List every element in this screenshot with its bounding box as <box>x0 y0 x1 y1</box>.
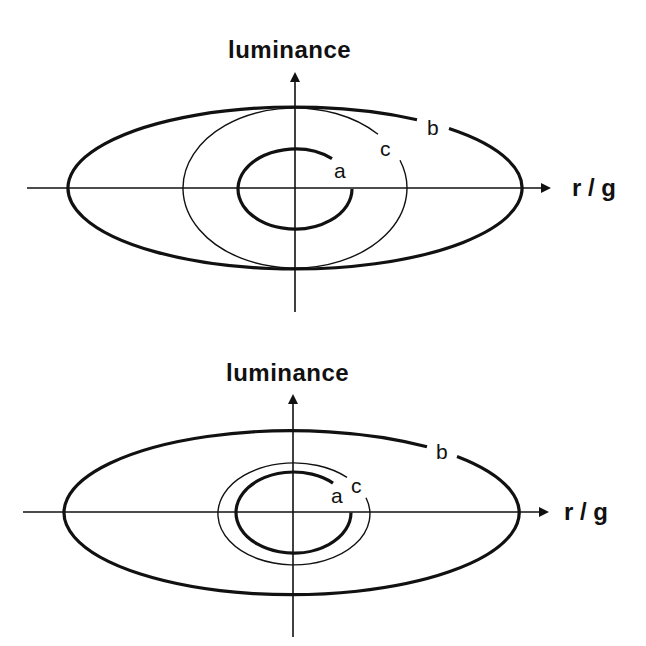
top-curve-b-label: b <box>427 117 439 138</box>
bottom-panel <box>23 396 547 637</box>
bottom-curve-c-label: c <box>351 475 362 496</box>
bottom-curve-c <box>218 463 370 565</box>
figure: luminance r / g a b c luminance r / g a … <box>0 0 646 646</box>
bottom-curve-b-label: b <box>436 441 448 462</box>
top-curve-a-label: a <box>334 160 346 181</box>
top-panel <box>27 74 549 312</box>
bottom-y-axis-label: luminance <box>226 361 349 385</box>
bottom-x-axis-label: r / g <box>564 500 608 524</box>
bottom-curve-a-label: a <box>331 485 343 506</box>
top-y-axis-label: luminance <box>228 38 351 62</box>
diagram-svg <box>0 0 646 646</box>
top-x-axis-label: r / g <box>572 176 616 200</box>
top-curve-c-label: c <box>380 138 391 159</box>
